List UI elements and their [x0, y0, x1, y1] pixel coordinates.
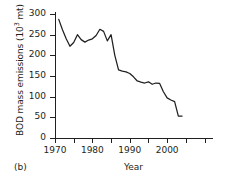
y-tick-label: 250: [12, 29, 46, 39]
y-tick-label: 300: [12, 8, 46, 18]
figure-panel-b: BOD mass emissions (103 mt) 050100150200…: [0, 0, 235, 184]
panel-label: (b): [14, 162, 27, 172]
x-tick-mark-minor: [186, 138, 187, 143]
x-tick-mark-minor: [74, 138, 75, 143]
x-tick-mark-minor: [205, 138, 206, 143]
y-tick-label: 100: [12, 91, 46, 101]
x-tick-mark: [55, 138, 56, 143]
y-tick-label: 50: [12, 111, 46, 121]
x-axis-spine: [54, 138, 213, 139]
x-tick-mark-minor: [111, 138, 112, 143]
x-tick-mark-minor: [148, 138, 149, 143]
x-tick-label: 1980: [72, 145, 112, 155]
x-tick-label: 1990: [110, 145, 150, 155]
y-tick-label: 150: [12, 70, 46, 80]
x-tick-mark: [167, 138, 168, 143]
data-line-bod-emissions: [59, 19, 182, 116]
x-tick-mark: [130, 138, 131, 143]
plot-area: [55, 14, 212, 138]
y-axis-title-exponent: 3: [13, 22, 21, 26]
y-tick-label: 200: [12, 49, 46, 59]
x-tick-mark: [92, 138, 93, 143]
x-tick-label: 2000: [147, 145, 187, 155]
x-axis-title: Year: [55, 162, 212, 172]
y-tick-label: 0: [12, 132, 46, 142]
x-tick-label: 1970: [35, 145, 75, 155]
